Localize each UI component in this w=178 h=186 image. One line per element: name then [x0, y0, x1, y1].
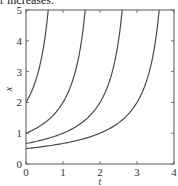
y-tick-label: 1 [17, 127, 23, 139]
y-tick-label: 5 [17, 4, 23, 16]
solution-curve-1 [26, 10, 48, 102]
y-tick-label: 2 [17, 96, 23, 108]
solution-curve-2 [26, 10, 85, 133]
y-axis-label: x [3, 86, 14, 92]
x-tick-label: 1 [60, 166, 66, 178]
x-tick-label: 4 [171, 166, 177, 178]
x-axis-label: t [99, 176, 102, 186]
tick-group: 01234012345 [17, 4, 178, 178]
axes-frame [26, 10, 174, 164]
solution-curves-chart: 01234012345 t x [0, 0, 177, 186]
y-tick-label: 4 [17, 35, 23, 47]
curve-group [26, 10, 159, 149]
x-tick-label: 3 [134, 166, 140, 178]
y-tick-label: 0 [17, 158, 23, 170]
y-tick-label: 3 [17, 66, 23, 78]
x-tick-label: 0 [23, 166, 29, 178]
